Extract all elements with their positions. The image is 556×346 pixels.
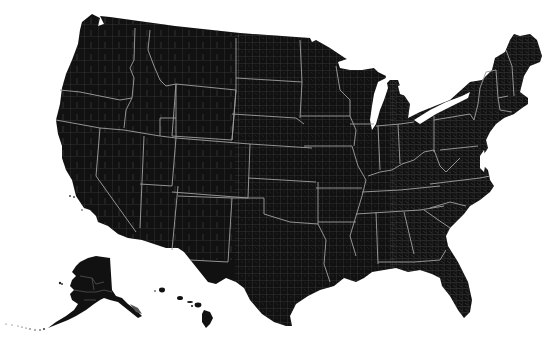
hawaii-big-island — [202, 310, 213, 328]
map-canvas — [0, 0, 556, 346]
molokai — [187, 301, 193, 303]
maui — [195, 303, 202, 308]
niihau — [154, 290, 156, 292]
county-borders — [50, 10, 550, 330]
alaska-inset — [6, 256, 143, 331]
us-county-map — [0, 0, 556, 346]
contiguous-us — [50, 10, 550, 330]
hawaii-inset — [154, 288, 213, 328]
oahu — [177, 296, 183, 300]
kauai — [159, 288, 165, 293]
lanai — [191, 305, 193, 307]
